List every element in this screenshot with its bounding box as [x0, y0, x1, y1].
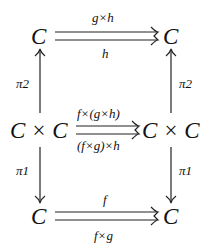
label-bottom-upper: f — [103, 193, 107, 206]
label-right-down: π1 — [179, 164, 192, 177]
node-mid-left: C × C — [10, 119, 68, 142]
label-left-down: π1 — [16, 164, 29, 177]
label-bottom-lower: f×g — [94, 229, 113, 242]
label-mid-upper: f×(g×h) — [77, 107, 120, 120]
node-bottom-right: C — [163, 205, 178, 228]
label-mid-lower: (f×g)×h — [77, 139, 120, 152]
label-top-lower: h — [102, 47, 109, 60]
node-top-left: C — [31, 25, 46, 48]
arrowhead-bottom — [151, 207, 158, 225]
arrowhead-mid — [132, 121, 139, 139]
arrowhead-top — [151, 27, 158, 45]
node-top-right: C — [163, 25, 178, 48]
node-bottom-left: C — [31, 205, 46, 228]
label-left-up: π2 — [16, 77, 29, 90]
label-right-up: π2 — [179, 77, 192, 90]
node-mid-right: C × C — [142, 119, 200, 142]
label-top-upper: g×h — [92, 11, 114, 24]
